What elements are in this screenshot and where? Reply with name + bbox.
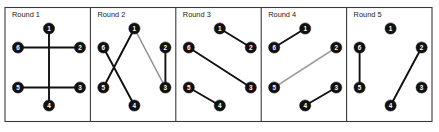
round-schedule-diagram: 123456123456123456123456123456 Round 1Ro… — [0, 0, 439, 132]
node-label-3-round-2: 3 — [164, 84, 168, 91]
node-label-6-round-1: 6 — [16, 44, 20, 51]
round-label-3: Round 3 — [183, 10, 211, 19]
round-label-4: Round 4 — [268, 10, 296, 19]
node-label-4-round-3: 4 — [218, 102, 222, 109]
node-label-5-round-2: 5 — [102, 84, 106, 91]
node-label-3-round-4: 3 — [334, 84, 338, 91]
node-label-1-round-4: 1 — [303, 25, 307, 32]
node-label-4-round-4: 4 — [303, 102, 307, 109]
node-label-5-round-3: 5 — [187, 84, 191, 91]
schedule-canvas: 123456123456123456123456123456 Round 1Ro… — [0, 0, 439, 132]
node-label-6-round-3: 6 — [187, 44, 191, 51]
node-label-1-round-3: 1 — [218, 25, 222, 32]
node-label-4-round-2: 4 — [133, 102, 137, 109]
node-label-2-round-1: 2 — [78, 44, 82, 51]
round-label-2: Round 2 — [97, 10, 125, 19]
node-label-3-round-5: 3 — [420, 84, 424, 91]
node-label-3-round-1: 3 — [78, 84, 82, 91]
node-label-6-round-5: 6 — [358, 44, 362, 51]
node-label-1-round-5: 1 — [389, 25, 393, 32]
node-label-5-round-4: 5 — [272, 84, 276, 91]
round-label-5: Round 5 — [354, 10, 382, 19]
node-label-4-round-5: 4 — [389, 102, 393, 109]
round-label-1: Round 1 — [12, 10, 40, 19]
node-label-2-round-3: 2 — [249, 44, 253, 51]
node-label-3-round-3: 3 — [249, 84, 253, 91]
node-label-1-round-1: 1 — [47, 25, 51, 32]
node-label-2-round-5: 2 — [420, 44, 424, 51]
node-label-2-round-4: 2 — [334, 44, 338, 51]
node-label-6-round-2: 6 — [102, 44, 106, 51]
node-label-1-round-2: 1 — [133, 25, 137, 32]
node-label-5-round-5: 5 — [358, 84, 362, 91]
node-label-2-round-2: 2 — [164, 44, 168, 51]
node-label-4-round-1: 4 — [47, 102, 51, 109]
node-label-6-round-4: 6 — [272, 44, 276, 51]
node-label-5-round-1: 5 — [16, 84, 20, 91]
